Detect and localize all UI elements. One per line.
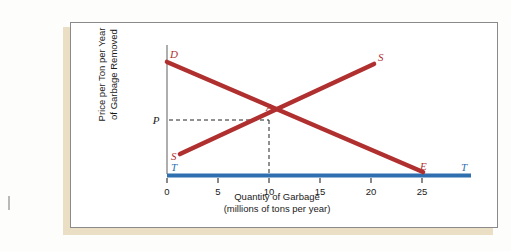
chart-area: 0 5 10 15 20 25 D S — [71, 23, 499, 229]
figure-page: 0 5 10 15 20 25 D S — [0, 0, 511, 251]
figure-card: 0 5 10 15 20 25 D S — [70, 22, 498, 228]
equilibrium-label-A: A — [265, 101, 273, 113]
demand-curve — [167, 62, 423, 172]
dashed-guides — [169, 120, 269, 174]
y-axis-title: Price per Ton per Year of Garbage Remove… — [96, 15, 119, 135]
page-edge-mark — [8, 196, 10, 210]
t-label-right: T — [461, 161, 468, 173]
x-axis-title-line1: Quantity of Garbage — [167, 191, 387, 203]
x-tick-25: 25 — [417, 186, 428, 197]
x-tick-marks — [167, 178, 422, 183]
t-label-left: T — [171, 161, 178, 173]
x-axis-title: Quantity of Garbage (millions of tons pe… — [167, 191, 387, 214]
x-axis-title-line2: (millions of tons per year) — [167, 203, 387, 215]
supply-label-S-right: S — [378, 51, 384, 63]
y-axis-title-line1: Price per Ton per Year — [96, 15, 108, 135]
price-label-P: P — [152, 114, 160, 126]
y-axis-title-line2: of Garbage Removed — [107, 15, 119, 135]
demand-intercept-label-E: E — [419, 160, 427, 172]
demand-label-D: D — [169, 48, 178, 60]
